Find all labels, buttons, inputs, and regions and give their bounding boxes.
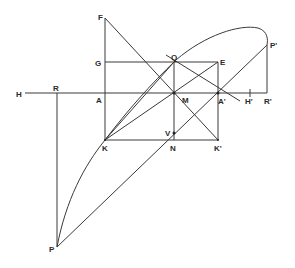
- line-F-Kprime: [105, 18, 218, 140]
- point-K-prime: [217, 139, 219, 141]
- point-A-prime: [217, 92, 220, 95]
- label-K-prime: K': [214, 144, 222, 153]
- label-K: K: [102, 144, 108, 153]
- label-V: V: [165, 129, 171, 138]
- label-H: H: [16, 90, 22, 99]
- curve-P-Pprime: [57, 27, 267, 247]
- label-H-prime: H': [245, 97, 253, 106]
- label-P: P: [49, 245, 55, 254]
- label-Q: Q: [171, 53, 177, 62]
- label-M: M: [182, 96, 189, 105]
- label-E: E: [220, 58, 226, 67]
- label-G: G: [95, 59, 101, 68]
- line-K-Q: [105, 62, 174, 140]
- label-P-prime: P': [270, 41, 277, 50]
- label-A-prime: A': [218, 97, 226, 106]
- point-M: [173, 92, 176, 95]
- point-V: [173, 132, 176, 135]
- label-A: A: [96, 96, 102, 105]
- label-F: F: [98, 13, 103, 22]
- point-K: [104, 139, 106, 141]
- label-R: R: [53, 84, 59, 93]
- geometric-diagram: F G Q E H R A M A' H' R' P' K N K' V P: [0, 0, 295, 268]
- label-R-prime: R': [264, 97, 272, 106]
- label-N: N: [170, 144, 176, 153]
